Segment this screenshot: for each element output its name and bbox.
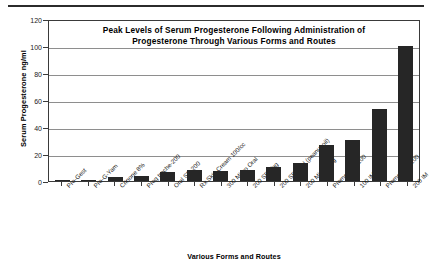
x-axis-tick-label: Pro-Gest [65,184,70,189]
y-axis-tick-label: 40 [16,125,42,132]
bar [240,170,255,181]
y-axis-tick-mark [43,101,48,102]
plot-area: Peak Levels of Serum Progesterone Follow… [48,20,420,182]
x-axis-tick-label: Oral SR-200 [172,184,177,189]
x-axis-tick-label: Prog troche-200 [145,184,150,189]
bar [108,177,123,181]
x-axis-tick-label: 200 IM [411,184,416,189]
y-axis-tick-mark [43,155,48,156]
bar [372,109,387,181]
y-axis-tick-mark [43,20,48,21]
x-axis-tick-labels: Pro-GestPro-G-YamCrinone 8%Prog troche-2… [48,184,420,246]
y-axis-tick-mark [43,128,48,129]
x-axis-tick-label: 200 Micro Vag [304,184,309,189]
x-axis-tick-label: Prometrium 100 [331,184,336,189]
bar [293,163,308,181]
bar [319,145,334,181]
bar [134,176,149,181]
bar [187,170,202,181]
x-axis-tick-label: Crinone 8% [118,184,123,189]
y-axis-tick-label: 0 [16,179,42,186]
bar [266,167,281,181]
x-axis-tick-label: Pro-G-Yam [92,184,97,189]
bar-series [49,21,419,181]
bar [398,46,413,181]
y-axis-tick-label: 80 [16,71,42,78]
x-axis-tick-label: 200 SR-Vag [251,184,256,189]
bar [81,180,96,181]
y-axis-tick-labels: 020406080100120 [16,20,42,182]
y-axis-tick-mark [43,182,48,183]
y-axis-tick-label: 20 [16,152,42,159]
x-axis-tick-label: 200 SR-Oral (peanut oil) [278,184,283,189]
bar-chart-figure: Serum Progesterone ng/ml 020406080100120… [0,0,432,269]
y-axis-tick-label: 60 [16,98,42,105]
y-axis-tick-mark [43,74,48,75]
x-axis-tick-label: Prometrium 200 [384,184,389,189]
x-axis-tick-label: Rx Skin Cream 100/cc [198,184,203,189]
y-axis-tick-label: 100 [16,44,42,51]
bar [213,171,228,181]
x-axis-tick-label: 300 Micro Oral [225,184,230,189]
y-axis-tick-mark [43,47,48,48]
x-axis-tick-label: 100 IM [358,184,363,189]
x-axis-title: Various Forms and Routes [48,252,420,261]
bar [160,172,175,181]
bar [345,140,360,181]
y-axis-tick-label: 120 [16,17,42,24]
bar [55,180,70,181]
